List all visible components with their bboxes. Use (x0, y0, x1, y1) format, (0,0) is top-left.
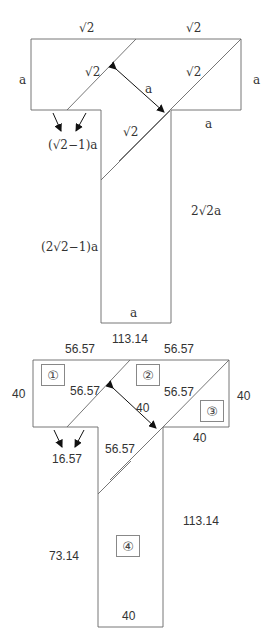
piece-4-badge: ④ (116, 535, 140, 557)
label-gap-value: 16.57 (52, 453, 82, 465)
label-diagonal-2-value: 56.57 (164, 386, 194, 398)
label-lower-diagonal-value: 56.57 (105, 443, 135, 455)
label-top-right-width: √2 (186, 22, 201, 34)
label-gap-expression: (√2−1)a (48, 139, 98, 151)
label-stem-bottom-value: 40 (122, 610, 135, 622)
piece-2-badge: ② (136, 364, 160, 386)
label-total-width: 113.14 (112, 333, 148, 345)
label-diagonal-1: √2 (85, 66, 100, 78)
label-lower-diagonal: √2 (123, 126, 138, 138)
label-right-height: a (253, 74, 260, 86)
top-diagram-shape (31, 39, 241, 323)
label-stem-left-value: 73.14 (49, 550, 79, 562)
label-top-left-width: √2 (79, 22, 94, 34)
label-diagonal-1-value: 56.57 (70, 385, 100, 397)
label-right-height-value: 40 (237, 390, 250, 402)
label-stem-right-height: 2√2a (191, 205, 221, 217)
label-stem-right-value: 113.14 (183, 515, 219, 527)
label-stem-bottom: a (130, 307, 137, 319)
label-stem-left-height: (2√2−1)a (41, 241, 98, 253)
label-step-width-value: 40 (193, 432, 206, 444)
label-top-left-segment: 56.57 (65, 343, 95, 355)
piece-1-badge: ① (41, 364, 65, 386)
label-arrow-distance: a (145, 83, 152, 95)
label-left-height: a (19, 74, 26, 86)
label-diagonal-2: √2 (186, 66, 201, 78)
top-diagram-arrows (53, 69, 164, 131)
label-arrow-value: 40 (136, 402, 149, 414)
piece-3-badge: ③ (200, 400, 224, 422)
label-top-right-segment: 56.57 (164, 343, 194, 355)
label-step-width: a (205, 118, 212, 130)
label-left-height-value: 40 (12, 388, 25, 400)
